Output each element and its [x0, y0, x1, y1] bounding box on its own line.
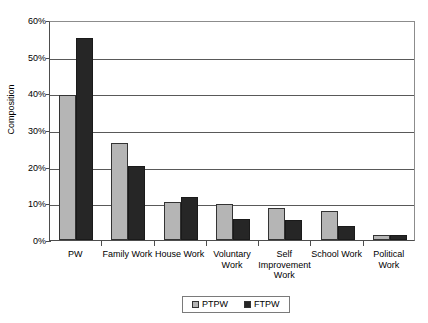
y-axis-tick-labels: 60%50%40%30%20%10%0%	[2, 0, 46, 323]
y-axis-tick-label: 20%	[6, 164, 46, 173]
bar-ptpw	[321, 211, 338, 240]
y-axis-tick-label: 60%	[6, 17, 46, 26]
legend-entry: PTPW	[192, 300, 228, 309]
bar-ftpw	[128, 166, 145, 240]
bar-ftpw	[181, 197, 198, 240]
x-axis-tick-mark	[258, 241, 259, 246]
bar-ptpw	[111, 143, 128, 240]
bar-ftpw	[233, 219, 250, 240]
x-axis-tick-labels: PWFamily WorkHouse WorkVoluntary WorkSel…	[49, 249, 415, 289]
bar-ftpw	[285, 220, 302, 240]
legend-entry: FTPW	[244, 300, 280, 309]
x-axis-tick-label: Self Improvement Work	[258, 249, 310, 281]
bar-ptpw	[373, 235, 390, 240]
bar-group	[268, 22, 302, 240]
bar-ptpw	[164, 202, 181, 240]
y-axis-tick-label: 40%	[6, 90, 46, 99]
bar-group	[111, 22, 145, 240]
x-axis-tick-mark	[310, 241, 311, 246]
x-axis-tick-mark	[363, 241, 364, 246]
x-axis-tick-label: Political Work	[363, 249, 415, 270]
legend-label: FTPW	[254, 300, 280, 309]
bar-ptpw	[216, 204, 233, 240]
bar-group	[321, 22, 355, 240]
y-axis-tick-label: 0%	[6, 237, 46, 246]
x-axis-tick-label: Voluntary Work	[206, 249, 258, 270]
x-axis-ticks	[49, 241, 415, 247]
x-axis-tick-mark	[154, 241, 155, 246]
x-axis-tick-label: House Work	[154, 249, 206, 260]
x-axis-tick-mark	[206, 241, 207, 246]
x-axis-tick-label: Family Work	[101, 249, 153, 260]
bar-ftpw	[338, 226, 355, 240]
legend-swatch-icon	[192, 301, 199, 308]
legend-swatch-icon	[244, 301, 251, 308]
y-axis-tick-label: 30%	[6, 127, 46, 136]
legend-label: PTPW	[202, 300, 228, 309]
bar-ptpw	[268, 208, 285, 240]
x-axis-tick-mark	[101, 241, 102, 246]
bar-group	[216, 22, 250, 240]
x-axis-tick-label: PW	[49, 249, 101, 260]
chart-legend: PTPWFTPW	[182, 296, 290, 313]
plot-area	[49, 21, 415, 241]
bar-group	[164, 22, 198, 240]
bar-group	[373, 22, 407, 240]
bar-ftpw	[390, 235, 407, 240]
bar-group	[59, 22, 93, 240]
y-axis-tick-label: 50%	[6, 54, 46, 63]
bar-ftpw	[76, 38, 93, 240]
bar-chart-figure: Composition 60%50%40%30%20%10%0% PWFamil…	[0, 0, 428, 323]
bar-ptpw	[59, 95, 76, 240]
y-axis-tick-label: 10%	[6, 200, 46, 209]
x-axis-tick-label: School Work	[310, 249, 362, 260]
